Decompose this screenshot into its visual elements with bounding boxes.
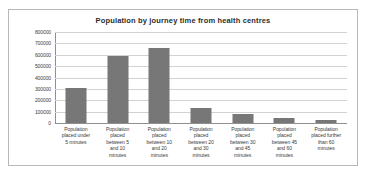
bar[interactable]	[190, 108, 211, 123]
y-axis-tick-labels: 8000007000006000005000004000003000002000…	[13, 32, 53, 123]
bar-slot	[97, 32, 139, 123]
chart-title: Population by journey time from health c…	[9, 16, 357, 25]
y-axis-tick-label: 200000	[35, 97, 51, 103]
y-axis-tick-label: 800000	[35, 29, 51, 35]
bar-slot	[264, 32, 306, 123]
x-axis-category-label: Populationplaced furtherthan 60minutes	[305, 126, 347, 152]
x-axis-label-line: minutes	[222, 152, 264, 158]
bar-series	[55, 32, 347, 123]
x-axis-label-line: minutes	[305, 145, 347, 151]
chart-frame: Population by journey time from health c…	[8, 9, 358, 166]
x-axis-category-labels: Populationplaced under5 minutesPopulatio…	[55, 126, 347, 164]
y-axis-tick-label: 400000	[35, 75, 51, 81]
x-axis-category-label: Populationplacedbetween 20and 30minutes	[180, 126, 222, 158]
bar[interactable]	[107, 56, 128, 123]
plot-area	[55, 32, 347, 123]
x-axis-category-label: Populationplacedbetween 10and 20minutes	[138, 126, 180, 158]
y-axis-tick-label: 500000	[35, 63, 51, 69]
gridline	[55, 123, 347, 124]
bar-slot	[305, 32, 347, 123]
y-axis-tick-label: 700000	[35, 40, 51, 46]
bar[interactable]	[316, 120, 337, 123]
x-axis-label-line: minutes	[264, 152, 306, 158]
x-axis-category-label: Populationplaced under5 minutes	[55, 126, 97, 145]
x-axis-category-label: Populationplacedbetween 5and 10minutes	[97, 126, 139, 158]
y-axis-tick-label: 600000	[35, 52, 51, 58]
bar-slot	[222, 32, 264, 123]
y-axis-tick-label: 300000	[35, 86, 51, 92]
bar-slot	[55, 32, 97, 123]
x-axis-label-line: 5 minutes	[55, 139, 97, 145]
x-axis-label-line: minutes	[138, 152, 180, 158]
y-axis-tick-label: 0	[48, 120, 51, 126]
x-axis-label-line: minutes	[97, 152, 139, 158]
bar[interactable]	[274, 118, 295, 123]
bar[interactable]	[149, 48, 170, 123]
y-axis-tick-label: 100000	[35, 109, 51, 115]
x-axis-label-line: minutes	[180, 152, 222, 158]
bar[interactable]	[65, 88, 86, 123]
x-axis-category-label: Populationplacedbetween 30and 45minutes	[222, 126, 264, 158]
bar[interactable]	[232, 114, 253, 123]
x-axis-label-line: placed further	[305, 132, 347, 138]
x-axis-category-label: Populationplacedbetween 45and 60minutes	[264, 126, 306, 158]
bar-slot	[180, 32, 222, 123]
bar-slot	[138, 32, 180, 123]
